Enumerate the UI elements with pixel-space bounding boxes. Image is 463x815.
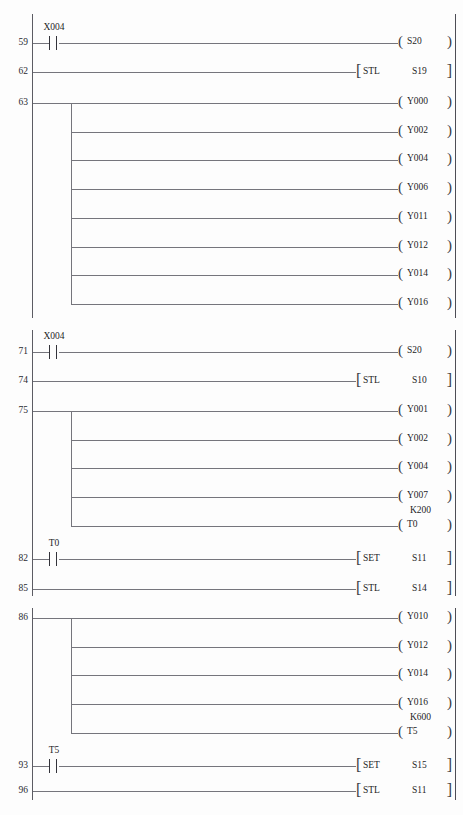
contact-label: T5 [49,746,60,756]
instruction-operand: S15 [412,760,427,771]
output-coil[interactable]: (Y014) [398,667,452,683]
coil-label: Y014 [407,668,428,679]
coil-label: Y010 [407,611,428,622]
instruction-opcode: STL [363,785,380,796]
output-coil[interactable]: (T5) [398,725,452,741]
bracket-open: [ [356,781,361,798]
coil-open-paren: ( [398,609,403,624]
rung-wire [71,675,398,676]
coil-open-paren: ( [398,666,403,681]
rung-wire [71,647,398,648]
instruction-box[interactable]: [STLS11] [356,783,452,799]
coil-open-paren: ( [398,724,403,739]
coil-close-paren: ) [447,638,452,653]
output-coil[interactable]: (Y012) [398,639,452,655]
output-coil[interactable]: (Y016) [398,696,452,712]
contact-bar-right [56,759,57,773]
rung-wire [71,733,398,734]
instruction-operand: S11 [412,785,426,796]
ladder-diagram-canvas: 59X004(S20)62[STLS19]63(Y000)(Y002)(Y004… [0,0,463,815]
bracket-close: ] [447,756,452,773]
rung-number: 93 [2,761,28,771]
rung-number: 86 [2,613,28,623]
coil-open-paren: ( [398,638,403,653]
instruction-box[interactable]: [SETS15] [356,758,452,774]
bracket-open: [ [356,756,361,773]
contact-bar-left [49,759,50,773]
bracket-close: ] [447,781,452,798]
rung-wire [33,618,398,619]
rung-wire [71,704,398,705]
rung-number: 96 [2,786,28,796]
coil-label: Y016 [407,697,428,708]
coil-label: Y012 [407,640,428,651]
coil-open-paren: ( [398,695,403,710]
ladder-block-3: 86(Y010)(Y012)(Y014)(Y016)(T5)K60093T5[S… [0,0,463,815]
output-coil[interactable]: (Y010) [398,610,452,626]
rung-wire [59,766,356,767]
coil-label: T5 [407,726,418,737]
coil-close-paren: ) [447,695,452,710]
coil-close-paren: ) [447,724,452,739]
coil-close-paren: ) [447,609,452,624]
coil-close-paren: ) [447,666,452,681]
rung-wire [33,791,356,792]
timer-preset-value: K600 [410,713,431,723]
instruction-opcode: SET [363,760,380,771]
right-power-rail [455,608,456,800]
left-power-rail [32,608,33,800]
